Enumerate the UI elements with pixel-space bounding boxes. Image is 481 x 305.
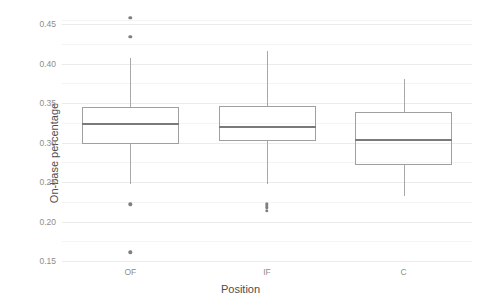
x-tick-label: C — [401, 267, 407, 277]
y-tick-label: 0.15 — [39, 256, 56, 266]
y-tick-label: 0.35 — [39, 98, 56, 108]
x-tick-label: OF — [124, 267, 136, 277]
median-line — [355, 139, 452, 141]
plot-panel — [62, 10, 472, 265]
y-tick-label: 0.30 — [39, 138, 56, 148]
x-axis-title: Position — [0, 283, 481, 295]
whisker-lower — [404, 165, 405, 197]
boxplot-figure: On-base percentage 0.150.200.250.300.350… — [0, 0, 481, 305]
y-tick-label: 0.40 — [39, 59, 56, 69]
x-axis-tick-labels: OFIFC — [62, 267, 472, 281]
y-tick-label: 0.20 — [39, 217, 56, 227]
y-axis-tick-labels: 0.150.200.250.300.350.400.45 — [0, 10, 56, 265]
y-tick-label: 0.25 — [39, 177, 56, 187]
y-tick-label: 0.45 — [39, 19, 56, 29]
x-tick-label: IF — [263, 267, 271, 277]
whisker-upper — [404, 79, 405, 112]
box-plot-c — [62, 10, 472, 265]
